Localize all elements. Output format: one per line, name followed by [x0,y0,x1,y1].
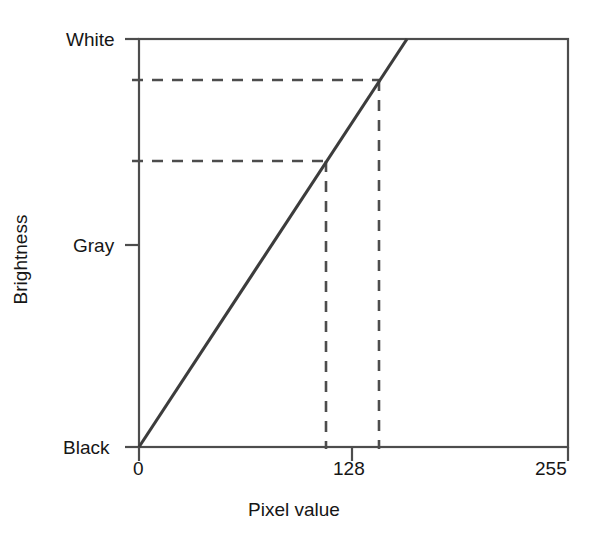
x-axis-tick-label-255: 255 [535,459,567,478]
caption-partial-text [58,531,578,539]
y-axis-title: Brightness [11,215,30,305]
figure-container: White Gray Black 0 128 255 Pixel value B… [0,0,604,540]
transfer-function-line [139,39,407,447]
y-axis-tick-label-gray: Gray [73,236,114,255]
x-axis-tick-label-0: 0 [133,459,144,478]
brightness-transfer-chart [0,0,604,540]
x-axis-tick-label-128: 128 [333,459,365,478]
x-axis-title: Pixel value [248,500,340,519]
y-axis-tick-label-black: Black [63,438,109,457]
y-axis-tick-label-white: White [66,30,115,49]
plot-frame [139,39,568,447]
